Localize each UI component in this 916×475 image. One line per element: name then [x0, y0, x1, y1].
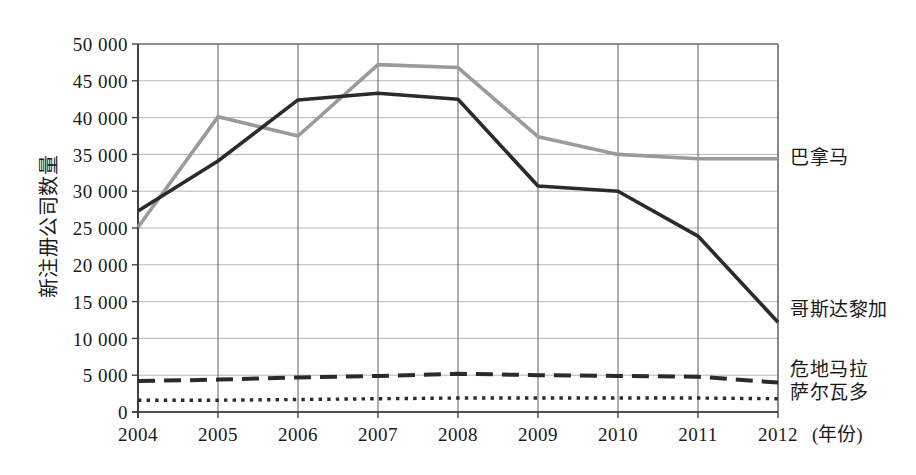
x-tick-label-2005: 2005 [173, 424, 263, 446]
x-axis-unit-label: (年份) [812, 424, 863, 446]
series-label-guatemala: 危地马拉 [790, 360, 868, 380]
x-tick-label-2011: 2011 [653, 424, 743, 446]
series-label-costa-rica: 哥斯达黎加 [790, 300, 888, 320]
x-tick-label-2010: 2010 [573, 424, 663, 446]
x-tick-label-2006: 2006 [253, 424, 343, 446]
series-label-el-salvador: 萨尔瓦多 [790, 383, 868, 403]
x-axis-tick-labels: 2004 2005 2006 2007 2008 2009 2010 2011 … [0, 0, 916, 475]
line-chart: 新注册公司数量 50 000 45 000 40 000 35 000 30 0… [0, 0, 916, 475]
series-label-panama: 巴拿马 [790, 148, 849, 168]
x-tick-label-2012: 2012 [733, 424, 823, 446]
x-tick-label-2009: 2009 [493, 424, 583, 446]
x-tick-label-2007: 2007 [333, 424, 423, 446]
x-tick-label-2004: 2004 [93, 424, 183, 446]
x-tick-label-2008: 2008 [413, 424, 503, 446]
